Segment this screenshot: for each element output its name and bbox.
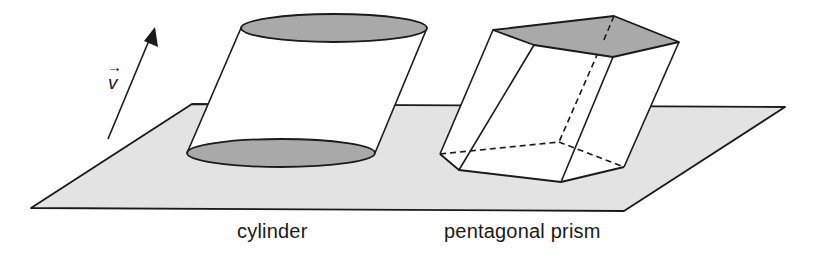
base-plane: [31, 104, 785, 211]
vector-arrow-icon: →: [107, 58, 122, 75]
diagram-figure: [0, 0, 817, 259]
diagram-canvas: → v cylinder pentagonal prism: [0, 0, 817, 259]
vector-label: → v: [108, 72, 118, 94]
vector-symbol: v: [108, 72, 118, 93]
cylinder-bottom-base: [187, 139, 375, 167]
cylinder-label: cylinder: [237, 220, 308, 243]
pentagonal-prism-label: pentagonal prism: [444, 220, 601, 243]
cylinder-top-base: [241, 14, 427, 42]
